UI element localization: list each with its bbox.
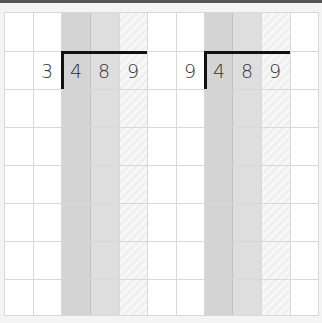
grid-line <box>4 165 319 166</box>
top-border <box>0 0 322 3</box>
dividend-ones-digit: 9 <box>261 52 289 90</box>
grid-line <box>290 12 291 316</box>
grid-line <box>4 12 5 316</box>
dividend-hundreds-digit: 4 <box>205 52 233 90</box>
grid-line <box>318 12 319 316</box>
grid-line <box>147 12 148 316</box>
dividend-tens-digit: 8 <box>90 52 118 90</box>
dividend-tens-digit: 8 <box>233 52 261 90</box>
divisor: 3 <box>33 52 61 90</box>
grid-line <box>4 241 319 242</box>
grid-line <box>4 279 319 280</box>
grid-line <box>4 127 319 128</box>
grid-line <box>4 203 319 204</box>
divisor: 9 <box>176 52 204 90</box>
grid-line <box>4 12 319 13</box>
dividend-ones-digit: 9 <box>119 52 147 90</box>
grid-line <box>4 315 319 316</box>
dividend-hundreds-digit: 4 <box>62 52 90 90</box>
